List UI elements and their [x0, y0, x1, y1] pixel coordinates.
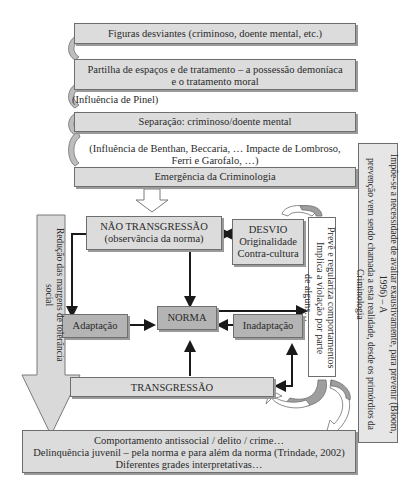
nao-transgressao-title: NÃO TRANSGRESSÃO [87, 221, 221, 233]
partilha-text-1: Partilha de espaços e de tratamento – a … [75, 64, 355, 76]
adaptacao-text: Adaptação [73, 320, 118, 331]
nao-transgressao-subtitle: (observância da norma) [87, 233, 221, 245]
separacao-text: Separação: criminoso/doente mental [139, 116, 292, 127]
emergencia-text: Emergência da Criminologia [154, 171, 275, 182]
transgressao-box: TRANSGRESSÃO [70, 377, 274, 397]
partilha-text-2: e o tratamento moral [75, 76, 355, 88]
adaptacao-box: Adaptação [62, 314, 128, 338]
outcome-box: Comportamento antissocial / delito / cri… [22, 430, 356, 473]
figuras-desviantes-box: Figuras desviantes (criminoso, doente me… [74, 23, 356, 44]
nao-transgressao-box: NÃO TRANSGRESSÃO (observância da norma) [86, 216, 222, 250]
desvio-box: DESVIO Originalidade Contra-cultura [232, 219, 304, 265]
impoe-text: Impõe-se a necessidade de avaliar exaust… [359, 148, 399, 440]
impoe-line-2: prevenção vem sendo chamada a esta reali… [353, 148, 376, 440]
outcome-line-1: Comportamento antissocial / delito / cri… [23, 435, 355, 447]
separacao-box: Separação: criminoso/doente mental [74, 112, 356, 132]
preve-line-1: Prevê e regulariza comportamentos [326, 222, 338, 374]
desvio-line-2: Originalidade [233, 236, 303, 248]
emergencia-down-arrow [136, 189, 168, 212]
preve-line-2: Implica a violação por parte [314, 222, 326, 374]
desvio-line-3: Contra-cultura [233, 248, 303, 260]
outcome-line-3: Diferentes grades interpretativas… [23, 459, 355, 471]
impoe-box: Impõe-se a necessidade de avaliar exaust… [358, 143, 398, 443]
benthan-note: (Influência de Benthan, Beccaria, … Impa… [74, 143, 356, 167]
inadaptacao-box: Inadaptação [233, 314, 303, 338]
outcome-line-2: Delinquência juvenil – pela norma e para… [23, 447, 355, 459]
preve-line-3: de alguns… [303, 222, 315, 374]
benthan-text-1: (Influência de Benthan, Beccaria, … Impa… [74, 143, 356, 155]
emergencia-box: Emergência da Criminologia [74, 167, 356, 187]
figuras-desviantes-text: Figuras desviantes (criminoso, doente me… [108, 28, 322, 39]
reducao-label: Redução das margens de tolerância social [37, 220, 65, 370]
norma-text: NORMA [167, 312, 206, 323]
curved-arrows-top [282, 205, 322, 216]
partilha-box: Partilha de espaços e de tratamento – a … [74, 59, 356, 90]
pinel-note: (Influência de Pinel) [72, 94, 158, 106]
preve-box: Prevê e regulariza comportamentos Implic… [308, 217, 336, 377]
desvio-title: DESVIO [233, 224, 303, 236]
preve-text: Prevê e regulariza comportamentos Implic… [309, 222, 337, 374]
benthan-text-2: Ferri e Garofalo, …) [74, 155, 356, 167]
norma-box: NORMA [157, 306, 217, 330]
impoe-line-1: Impõe-se a necessidade de avaliar exaust… [376, 148, 399, 440]
curved-arrows-bottom [266, 380, 350, 436]
transgressao-text: TRANSGRESSÃO [131, 382, 213, 393]
inadaptacao-text: Inadaptação [243, 320, 294, 331]
